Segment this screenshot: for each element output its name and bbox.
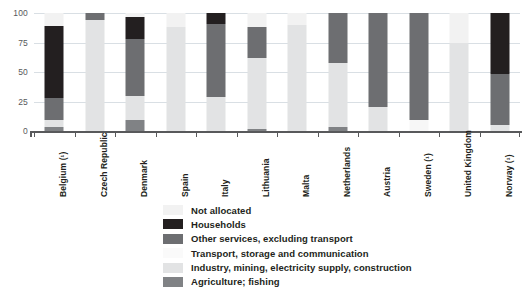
y-axis-tick-label: 100 (13, 8, 28, 18)
stacked-bar[interactable] (369, 13, 388, 131)
x-axis-tick (156, 132, 157, 137)
legend-item[interactable]: Industry, mining, electricity supply, co… (163, 261, 513, 275)
x-axis-tick (399, 132, 400, 137)
legend-swatch (163, 219, 183, 229)
legend-swatch (163, 234, 183, 244)
y-axis-tick-label: 0 (23, 126, 28, 136)
x-axis-category-label: Czech Republic (99, 132, 109, 197)
x-axis-tick (318, 132, 319, 137)
bar-segment (126, 120, 145, 131)
bar-slot (358, 13, 399, 131)
bar-segment (126, 39, 145, 96)
bar-segment (85, 20, 104, 131)
stacked-bar[interactable] (288, 13, 307, 131)
stacked-bar[interactable] (490, 13, 509, 131)
stacked-bar[interactable] (247, 13, 266, 131)
x-axis-label-slot: Netherlands (318, 139, 359, 199)
x-axis-label-slot: Sweden (¹) (399, 139, 440, 199)
x-axis-label-slot: Italy (196, 139, 237, 199)
x-axis-label-slot: Spain (156, 139, 197, 199)
bar-segment (409, 13, 428, 120)
x-axis-tick (519, 132, 520, 137)
bar-slot (75, 13, 116, 131)
x-axis-tick (115, 132, 116, 137)
x-axis-tick (196, 132, 197, 137)
bar-segment (166, 13, 185, 27)
y-axis-tick-label: 25 (18, 97, 28, 107)
x-axis-label-slot: Lithuania (237, 139, 278, 199)
x-axis-label-slot: Denmark (115, 139, 156, 199)
bar-segment (85, 13, 104, 20)
x-axis-tick (480, 132, 481, 137)
bar-segment (247, 27, 266, 58)
legend-item[interactable]: Other services, excluding transport (163, 232, 513, 246)
x-axis-label-slot: Malta (277, 139, 318, 199)
bar-segment (45, 120, 64, 127)
x-axis-category-label: Austria (382, 167, 392, 197)
stacked-bar[interactable] (166, 13, 185, 131)
x-axis-category-label: Netherlands (342, 147, 352, 197)
x-axis-category-label: Spain (180, 173, 190, 197)
bar-segment (490, 13, 509, 74)
x-axis-category-label: United Kingdom (463, 130, 473, 197)
x-axis-category-label: Italy (220, 179, 230, 197)
bar-segment (207, 24, 226, 97)
bar-segment (207, 13, 226, 24)
bar-slot (196, 13, 237, 131)
bar-segment (126, 13, 145, 17)
legend-item[interactable]: Not allocated (163, 203, 513, 217)
x-axis-start-tick (30, 131, 32, 137)
y-axis-labels: 0255075100 (0, 0, 28, 145)
y-axis-tick-label: 50 (18, 67, 28, 77)
chart-legend: Not allocatedHouseholdsOther services, e… (163, 203, 513, 289)
bar-slot (237, 13, 278, 131)
bar-slot (318, 13, 359, 131)
bar-segment (207, 97, 226, 131)
bar-segment (45, 13, 64, 26)
legend-swatch (163, 205, 183, 215)
x-axis-category-label: Malta (301, 175, 311, 197)
x-axis-tick (277, 132, 278, 137)
bar-slot (277, 13, 318, 131)
bar-slot (34, 13, 75, 131)
x-axis-label-slot: United Kingdom (439, 139, 480, 199)
stacked-bar[interactable] (85, 13, 104, 131)
bar-segment (45, 98, 64, 120)
legend-label: Transport, storage and communication (191, 248, 369, 259)
bar-segment (126, 96, 145, 121)
x-axis-label-slot: Austria (358, 139, 399, 199)
x-axis-category-label: Belgium (¹) (58, 152, 68, 197)
legend-swatch (163, 248, 183, 258)
legend-swatch (163, 277, 183, 287)
bar-segment (288, 13, 307, 25)
x-axis-category-label: Denmark (139, 160, 149, 197)
bar-slot (399, 13, 440, 131)
bar-segment (490, 74, 509, 125)
bars-container (34, 13, 520, 131)
x-axis-category-label: Sweden (¹) (423, 153, 433, 197)
bar-segment (369, 107, 388, 131)
legend-item[interactable]: Transport, storage and communication (163, 246, 513, 260)
x-axis-tick (358, 132, 359, 137)
legend-swatch (163, 263, 183, 273)
stacked-bar[interactable] (409, 13, 428, 131)
bar-segment (126, 17, 145, 39)
x-axis-category-labels: Belgium (¹)Czech RepublicDenmarkSpainIta… (34, 139, 520, 199)
stacked-bar[interactable] (450, 13, 469, 131)
bar-segment (247, 13, 266, 27)
legend-item[interactable]: Agriculture; fishing (163, 275, 513, 289)
x-axis-label-slot: Norway (¹) (480, 139, 521, 199)
legend-item[interactable]: Households (163, 217, 513, 231)
y-axis-tick-label: 75 (18, 38, 28, 48)
x-axis-label-slot: Czech Republic (75, 139, 116, 199)
stacked-bar[interactable] (328, 13, 347, 131)
bar-segment (328, 63, 347, 128)
stacked-bar[interactable] (207, 13, 226, 131)
stacked-bar[interactable] (45, 13, 64, 131)
legend-label: Households (191, 219, 246, 230)
bar-slot (439, 13, 480, 131)
x-axis-tick (439, 132, 440, 137)
stacked-bar[interactable] (126, 13, 145, 131)
stacked-bar-chart: 0255075100 Belgium (¹)Czech RepublicDenm… (0, 0, 526, 292)
bar-slot (115, 13, 156, 131)
